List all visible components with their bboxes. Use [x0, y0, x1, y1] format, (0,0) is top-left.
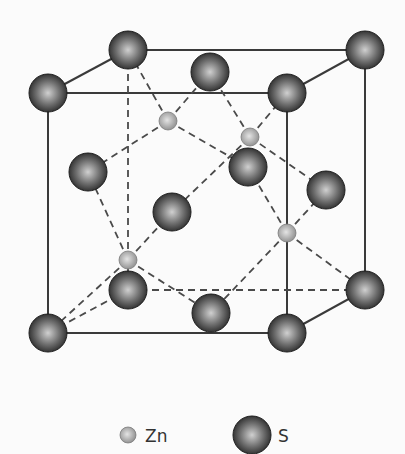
s-atom [268, 74, 306, 112]
s-atom [109, 31, 147, 69]
s-atoms [29, 31, 384, 352]
zn-atom [119, 251, 137, 269]
zn-legend-icon [120, 427, 136, 443]
s-atom [69, 153, 107, 191]
s-atom [192, 294, 230, 332]
s-atom [191, 53, 229, 91]
zn-atom [159, 112, 177, 130]
zn-legend-label: Zn [145, 426, 167, 446]
s-legend-icon [233, 416, 271, 454]
legend: Zn S [120, 416, 289, 454]
zinc-blende-diagram: Zn S [0, 0, 405, 454]
s-atom [307, 171, 345, 209]
s-atom [229, 148, 267, 186]
zn-atom [241, 128, 259, 146]
s-atom [29, 74, 67, 112]
s-atom [109, 271, 147, 309]
s-atom [346, 271, 384, 309]
s-atom [153, 193, 191, 231]
zn-atom [278, 224, 296, 242]
s-atom [268, 314, 306, 352]
s-legend-label: S [278, 426, 289, 446]
s-atom [29, 314, 67, 352]
s-atom [346, 31, 384, 69]
